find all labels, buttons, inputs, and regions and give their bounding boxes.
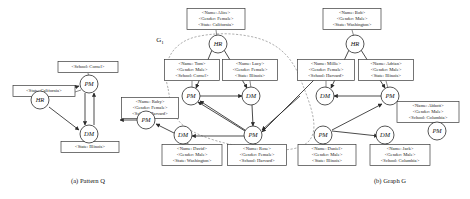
- attribute-line: <State: Illinois>: [312, 158, 342, 163]
- attribute-line: <School: Columbia>: [409, 115, 448, 120]
- edge-pm5-to-dm4: [332, 131, 378, 136]
- attribute-line: <Name: Ruby>: [136, 99, 165, 104]
- node-label: PM: [247, 131, 258, 138]
- graph-node-dm[interactable]: DM: [376, 126, 394, 144]
- attribute-line: <School: Cornel>: [72, 64, 105, 69]
- attribute-line: <State: Illinois>: [371, 73, 401, 78]
- attribute-line: <School: Harvard>: [308, 73, 344, 78]
- graph-attribute-box: <Name: Millie><Gender: Female><School: H…: [298, 60, 355, 81]
- node-label: DM: [245, 92, 257, 99]
- graph-attribute-box: <Name: Daniel><Gender: Male><State: Illi…: [298, 145, 356, 166]
- attribute-line: <Gender: Male>: [371, 67, 402, 72]
- graph-node-pm[interactable]: PM: [381, 87, 399, 105]
- attribute-line: <School: Harvard>: [239, 158, 275, 163]
- panel-graph-g: G1: [120, 9, 459, 186]
- attribute-line: <Gender: Male>: [413, 109, 444, 114]
- node-label: DM: [319, 92, 331, 99]
- attribute-line: <Name: Millie>: [311, 61, 341, 66]
- node-label: HR: [213, 40, 223, 47]
- graph-attribute-box: <Name: Lucy><Gender: Female><State: Illi…: [223, 60, 278, 81]
- node-label: PM: [384, 92, 395, 99]
- attribute-line: <Gender: Female>: [240, 152, 275, 157]
- graph-attribute-box: <Name: Adrian><Gender: Male><State: Illi…: [359, 60, 414, 81]
- node-label: DM: [177, 131, 189, 138]
- graph-node-pm[interactable]: PM: [244, 126, 262, 144]
- node-label: HR: [35, 96, 45, 103]
- graph-node-hr[interactable]: HR: [346, 35, 364, 53]
- node-label: DM: [83, 130, 95, 137]
- attribute-line: <Gender: Male>: [177, 152, 208, 157]
- attribute-line: <State: Washington>: [173, 158, 212, 163]
- attribute-line: <Name: Abbott>: [412, 103, 443, 108]
- node-label: PM: [317, 131, 328, 138]
- graph-node-pm[interactable]: PM: [182, 87, 200, 105]
- panel-pattern-q: <School: Cornel><State: California><Stat…: [13, 62, 119, 186]
- attribute-line: <State: Illinois>: [75, 144, 105, 149]
- attribute-line: <Name: Rose>: [243, 146, 271, 151]
- pattern-node-hr[interactable]: HR: [31, 91, 49, 109]
- edge-dm2-to-pm3: [156, 124, 174, 133]
- node-label: PM: [185, 92, 196, 99]
- edge-pm2-to-pm1: [200, 101, 245, 130]
- figure-svg: <School: Cornel><State: California><Stat…: [0, 0, 470, 199]
- edge-pm2-to-pm1-b: [198, 102, 245, 131]
- node-label: PM: [83, 80, 94, 87]
- graph-attribute-box: <Name: Abbott><Gender: Male><School: Col…: [397, 102, 459, 123]
- graph-attribute-boxes: <Name: Alice><Gender: Female><State: Cal…: [122, 9, 460, 166]
- graph-node-dm[interactable]: DM: [242, 87, 260, 105]
- attribute-line: <State: Illinois>: [235, 73, 265, 78]
- attribute-line: <Gender: Male>: [312, 152, 343, 157]
- attribute-line: <Gender: Female>: [133, 105, 168, 110]
- attribute-line: <Gender: Male>: [177, 67, 208, 72]
- attribute-line: <Name: Bob>: [339, 10, 366, 15]
- attribute-line: <Name: Alice>: [202, 10, 231, 15]
- graph-node-pm[interactable]: PM: [314, 126, 332, 144]
- caption-pattern: (a) Pattern Q: [71, 177, 105, 185]
- caption-graph: (b) Graph G: [374, 177, 406, 185]
- attribute-line: <Name: Jack>: [387, 146, 414, 151]
- attribute-line: <Name: David>: [177, 146, 207, 151]
- pattern-node-pm[interactable]: PM: [80, 75, 98, 93]
- attribute-line: <Name: Lucy>: [236, 61, 264, 66]
- graph-attribute-box: <Name: Tom><Gender: Male><School: Cornel…: [165, 60, 220, 81]
- graph-node-pm[interactable]: PM: [428, 122, 446, 140]
- graph-attribute-box: <Name: Alice><Gender: Female><State: Cal…: [187, 9, 245, 30]
- node-label: HR: [350, 40, 360, 47]
- edge-pm5-to-pm4: [332, 104, 382, 130]
- graph-attribute-box: <Name: Rose><Gender: Female><School: Har…: [228, 145, 287, 166]
- graph-node-pm[interactable]: PM: [137, 111, 155, 129]
- graph-attribute-box: <Name: Jack><Gender: Male><School: Colum…: [370, 145, 430, 166]
- graph-node-hr[interactable]: HR: [209, 35, 227, 53]
- attribute-line: <Gender: Male>: [385, 152, 416, 157]
- attribute-line: <Gender: Female>: [199, 16, 234, 21]
- graph-attribute-box: <Name: David><Gender: Male><State: Washi…: [162, 145, 222, 166]
- pattern-attribute-box: <School: Cornel>: [58, 62, 118, 73]
- attribute-line: <Name: Daniel>: [312, 146, 343, 151]
- attribute-line: <Gender: Female>: [233, 67, 268, 72]
- attribute-line: <Name: Adrian>: [370, 61, 401, 66]
- attribute-line: <State: Washington>: [333, 22, 372, 27]
- pattern-attribute-boxes: <School: Cornel><State: California><Stat…: [13, 62, 119, 153]
- region-g1-label: G1: [156, 36, 164, 45]
- pattern-node-dm[interactable]: DM: [80, 125, 98, 143]
- attribute-line: <Gender: Female>: [309, 67, 344, 72]
- edge-dm1-to-pm2: [252, 105, 253, 126]
- attribute-line: <Name: Tom>: [179, 61, 206, 66]
- attribute-line: <Gender: Male>: [337, 16, 368, 21]
- node-label: PM: [431, 127, 442, 134]
- attribute-line: <School: Cornel>: [176, 73, 209, 78]
- graph-attribute-box: <Name: Bob><Gender: Male><State: Washing…: [323, 9, 381, 30]
- graph-nodes: HRPMDMPMDMPMHRDMPMPMDMPM: [137, 35, 446, 144]
- edge-hr-to-dm: [49, 107, 79, 130]
- node-label: PM: [140, 116, 151, 123]
- graph-node-dm[interactable]: DM: [316, 87, 334, 105]
- attribute-line: <State: California>: [198, 22, 234, 27]
- graph-node-dm[interactable]: DM: [174, 126, 192, 144]
- attribute-line: <School: Columbia>: [381, 158, 420, 163]
- node-label: DM: [379, 131, 391, 138]
- edge-millie-to-pm2: [262, 78, 316, 132]
- edge-dm3-to-pm2: [262, 96, 300, 130]
- figure-container: <School: Cornel><State: California><Stat…: [0, 0, 470, 199]
